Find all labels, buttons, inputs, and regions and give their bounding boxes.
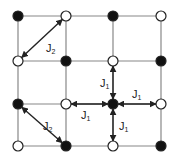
open-site-node: [156, 99, 166, 109]
label-j2-top: J2: [46, 43, 55, 55]
lattice-nodes: [13, 11, 166, 151]
open-site-node: [156, 11, 166, 21]
open-site-node: [13, 56, 23, 66]
open-site-node: [108, 56, 118, 66]
open-site-node: [108, 141, 118, 151]
filled-site-node: [61, 141, 71, 151]
filled-site-node: [13, 99, 23, 109]
filled-site-node: [108, 99, 118, 109]
open-site-node: [61, 11, 71, 21]
lattice-diagram: [0, 0, 174, 163]
open-site-node: [13, 141, 23, 151]
coupling-j2-arrow: [22, 107, 62, 142]
label-j1-down: J1: [119, 121, 128, 133]
label-j1-right: J1: [132, 89, 141, 101]
filled-site-node: [61, 56, 71, 66]
filled-site-node: [13, 11, 23, 21]
label-j2-bottom: J2: [43, 121, 52, 133]
filled-site-node: [156, 141, 166, 151]
label-j1-up: J1: [100, 78, 109, 90]
filled-site-node: [156, 56, 166, 66]
coupling-j2-arrow: [22, 19, 63, 57]
open-site-node: [61, 99, 71, 109]
coupling-arrows: [22, 19, 156, 142]
filled-site-node: [108, 11, 118, 21]
label-j1-left: J1: [81, 110, 90, 122]
grid-lines: [18, 16, 161, 146]
